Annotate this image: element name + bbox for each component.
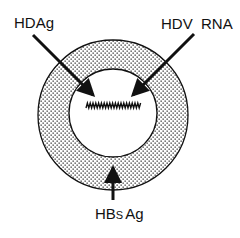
label-hbsag-suffix: Ag — [125, 205, 143, 222]
hdv-particle-diagram: HDAg HDV RNA HBSAg — [0, 0, 240, 238]
label-hbsag: HBSAg — [95, 205, 144, 222]
label-hbsag-prefix: HB — [95, 205, 116, 222]
label-hdv-rna: HDV RNA — [161, 15, 233, 32]
label-hdag: HDAg — [14, 14, 54, 31]
label-hbsag-subscript: S — [116, 209, 123, 221]
